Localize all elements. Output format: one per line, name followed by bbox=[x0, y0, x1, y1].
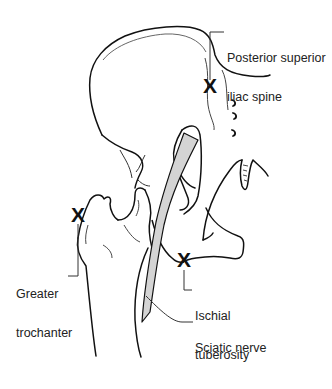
psis-label: Posterior superior iliac spine bbox=[227, 26, 326, 117]
sciatic-nerve bbox=[142, 133, 198, 322]
greater-trochanter-marker: X bbox=[71, 205, 85, 225]
ilium-inner-contour bbox=[103, 34, 206, 60]
greater-trochanter-label-line2: trochanter bbox=[16, 327, 72, 340]
sciatic-nerve-label-line1: Sciatic nerve bbox=[195, 342, 267, 355]
hip-joint-lines bbox=[120, 150, 150, 186]
greater-trochanter-label-line1: Greater bbox=[16, 288, 72, 301]
ischial-tuberosity-leader bbox=[184, 270, 192, 290]
femur-outline bbox=[77, 188, 152, 357]
psis-label-line2: iliac spine bbox=[227, 91, 326, 104]
ischium-outline bbox=[183, 160, 268, 262]
psis-label-line1: Posterior superior bbox=[227, 52, 326, 65]
greater-trochanter-label: Greater trochanter bbox=[16, 262, 72, 353]
ischial-tuberosity-marker: X bbox=[177, 250, 191, 270]
psis-marker: X bbox=[203, 76, 217, 96]
psis-leader bbox=[210, 32, 224, 80]
sciatic-nerve-leader bbox=[146, 296, 193, 322]
sciatic-nerve-label: Sciatic nerve bbox=[195, 316, 267, 368]
ischium-texture bbox=[243, 165, 248, 181]
